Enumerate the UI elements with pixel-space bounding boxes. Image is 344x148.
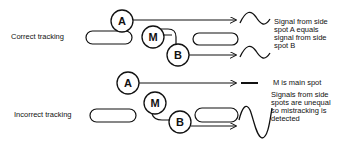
track-right <box>195 108 238 122</box>
track-right <box>193 33 238 45</box>
correct-caption: Signal from side spot A equals signal fr… <box>274 18 328 50</box>
incorrect-tracking-group <box>90 72 272 138</box>
spot-a-letter: A <box>118 15 126 27</box>
spot-b-letter: B <box>174 49 182 61</box>
track-left <box>86 31 132 44</box>
correct-tracking-label: Correct tracking <box>11 33 64 42</box>
main-spot-caption: M is main spot <box>273 79 321 87</box>
spot-m-letter: M <box>148 31 157 43</box>
wave-b <box>239 106 272 138</box>
track-left <box>90 109 136 122</box>
incorrect-tracking-label: Incorrect tracking <box>14 111 72 120</box>
wave-b <box>240 46 270 58</box>
wave-a <box>240 12 270 24</box>
spot-a-letter: A <box>124 77 132 89</box>
spot-m-letter: M <box>150 97 159 109</box>
spot-b-letter: B <box>176 116 184 128</box>
incorrect-caption: Signals from side spots are unequal so m… <box>271 91 331 123</box>
